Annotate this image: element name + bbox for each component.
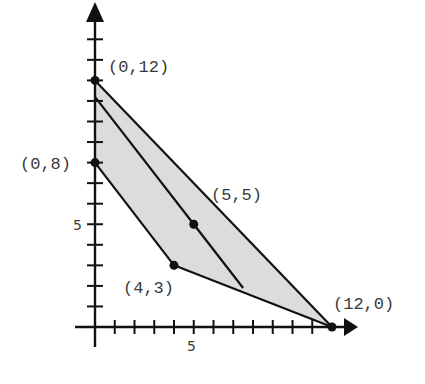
y-axis-arrow-icon	[86, 2, 104, 22]
label-0-8: (0,8)	[20, 155, 71, 174]
vertex-point	[170, 261, 179, 270]
x-tick-label-5: 5	[187, 338, 196, 354]
x-axis-arrow-icon	[344, 318, 358, 336]
label-4-3: (4,3)	[123, 279, 174, 298]
label-12-0: (12,0)	[333, 295, 394, 314]
vertex-point	[91, 158, 100, 167]
label-0-12: (0,12)	[108, 58, 169, 77]
label-5-5: (5,5)	[211, 186, 262, 205]
vertex-point	[189, 220, 198, 229]
y-tick-label-5: 5	[73, 217, 82, 233]
linear-programming-plot: (0,12) (0,8) (5,5) (4,3) (12,0) 5 5	[0, 0, 425, 384]
vertex-point	[328, 323, 337, 332]
vertex-point	[91, 76, 100, 85]
